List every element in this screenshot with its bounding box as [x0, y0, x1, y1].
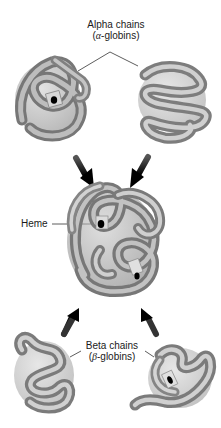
heme-label: Heme: [21, 218, 48, 229]
beta-chains-label: Beta chains (β-globins): [82, 340, 142, 362]
heme-icon: [134, 272, 139, 279]
beta-chain-right: [135, 348, 212, 408]
alpha-chain-left: [15, 60, 86, 137]
alpha-chains-label: Alpha chains (α-globins): [80, 19, 152, 41]
heme-icon: [51, 96, 57, 104]
arrow-alpha-right-icon: [130, 157, 148, 188]
hemoglobin-tetramer: [67, 186, 160, 294]
beta-chain-left: [14, 337, 74, 409]
alpha-leader-lines: [78, 52, 138, 71]
alpha-chain-right: [138, 66, 206, 138]
arrow-alpha-left-icon: [76, 158, 94, 188]
beta-chains-subtitle: (β-globins): [82, 351, 142, 362]
hemoglobin-diagram: [0, 0, 221, 428]
arrow-beta-left-icon: [64, 308, 79, 334]
alpha-chains-subtitle: (α-globins): [80, 30, 152, 41]
beta-chains-title: Beta chains: [82, 340, 142, 351]
arrow-beta-right-icon: [141, 308, 156, 334]
alpha-chains-title: Alpha chains: [80, 19, 152, 30]
heme-icon: [98, 220, 105, 228]
